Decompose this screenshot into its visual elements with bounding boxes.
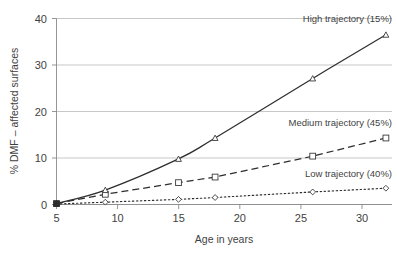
y-tick-label-30: 30 [35,59,47,71]
data-point-marker [176,196,182,202]
y-axis-title: % DMF – affected surfaces [8,48,20,174]
data-point-marker [383,185,389,191]
data-point-marker [310,189,316,195]
data-point-marker [310,76,316,81]
line-chart-plot: 40 30 20 10 0 5 10 15 20 25 30 Age in ye… [0,0,397,258]
annotation-high-trajectory: High trajectory (15%) [303,13,392,24]
y-tick-label-20: 20 [35,106,47,118]
x-tick-label-5: 5 [53,212,59,224]
x-tick-label-10: 10 [111,212,123,224]
data-point-marker [310,153,316,159]
data-point-marker [212,174,218,180]
y-tick-label-40: 40 [35,13,47,25]
chart-container: 40 30 20 10 0 5 10 15 20 25 30 Age in ye… [0,0,397,258]
annotation-medium-trajectory: Medium trajectory (45%) [289,117,392,128]
x-axis-group: 5 10 15 20 25 30 [53,205,392,225]
y-axis-group: 40 30 20 10 0 [35,13,57,211]
x-tick-label-15: 15 [173,212,185,224]
data-point-marker [212,195,218,201]
series-annotations: High trajectory (15%) Medium trajectory … [289,13,392,179]
data-point-marker [383,32,389,37]
data-point-marker [383,135,389,141]
data-point-marker [212,135,218,140]
y-tick-label-10: 10 [35,152,47,164]
x-tick-label-25: 25 [295,212,307,224]
data-point-marker [176,156,182,161]
x-axis-title: Age in years [195,233,253,245]
annotation-low-trajectory: Low trajectory (40%) [305,168,392,179]
y-tick-label-0: 0 [41,199,47,211]
x-tick-label-20: 20 [234,212,246,224]
x-tick-label-30: 30 [356,212,368,224]
data-point-marker [176,180,182,186]
